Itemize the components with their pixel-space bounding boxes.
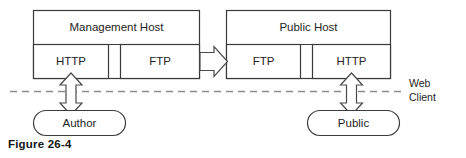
- author-label: Author: [63, 117, 97, 129]
- network-architecture-diagram: Management Host HTTP FTP Public Host FTP…: [0, 0, 466, 158]
- public-host-group: Public Host FTP HTTP: [227, 11, 391, 79]
- web-client-label-line1: Web: [409, 77, 431, 89]
- figure-container: Management Host HTTP FTP Public Host FTP…: [0, 0, 466, 158]
- author-actor-group: Author: [34, 111, 126, 136]
- management-host-title: Management Host: [70, 21, 165, 33]
- public-actor-label: Public: [338, 117, 370, 129]
- author-http-arrow: [60, 73, 82, 115]
- management-ftp-label: FTP: [149, 55, 171, 67]
- figure-caption: Figure 26-4: [8, 138, 72, 150]
- ftp-transfer-arrow: [200, 47, 228, 77]
- public-http-label: HTTP: [336, 55, 366, 67]
- web-client-label-line2: Client: [409, 91, 436, 103]
- public-http-arrow: [341, 73, 363, 115]
- management-host-group: Management Host HTTP FTP: [34, 11, 200, 79]
- web-client-label-group: Web Client: [409, 77, 436, 103]
- public-actor-group: Public: [308, 111, 400, 136]
- management-http-label: HTTP: [56, 55, 86, 67]
- public-host-title: Public Host: [279, 21, 338, 33]
- public-ftp-label: FTP: [253, 55, 275, 67]
